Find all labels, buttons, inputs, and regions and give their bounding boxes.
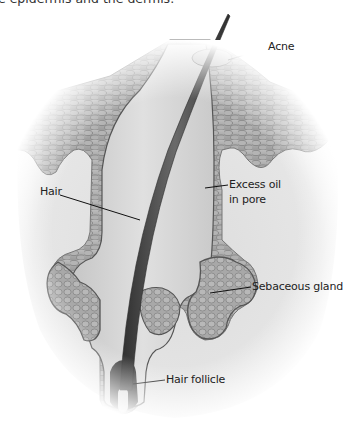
label-excess-oil: Excess oil xyxy=(229,178,281,192)
dermal-papilla xyxy=(118,388,128,412)
label-in-pore: in pore xyxy=(229,193,266,207)
caption-fragment: e epidermis and the dermis. xyxy=(0,0,174,6)
label-hair-follicle: Hair follicle xyxy=(166,373,225,387)
label-sebaceous-gland: Sebaceous gland xyxy=(252,280,343,294)
label-hair: Hair xyxy=(40,185,62,199)
label-acne: Acne xyxy=(268,40,294,54)
skin-diagram: e epidermis and the dermis. xyxy=(0,0,350,424)
illustration xyxy=(0,0,350,424)
